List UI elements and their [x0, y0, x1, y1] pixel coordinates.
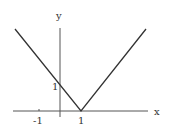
y-tick-label-1: 1: [52, 81, 58, 92]
absolute-value-plot: y x -1 1 1: [0, 0, 171, 128]
x-axis-label: x: [154, 106, 160, 117]
x-tick-label-neg1: -1: [33, 115, 43, 126]
abs-value-curve: [15, 29, 146, 111]
x-tick-label-1: 1: [78, 115, 84, 126]
y-axis-label: y: [55, 10, 62, 21]
